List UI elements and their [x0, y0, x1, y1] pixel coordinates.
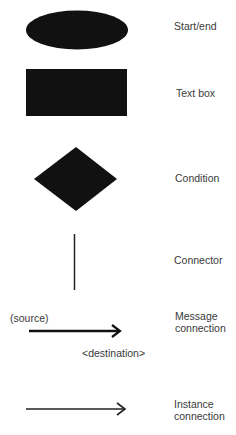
instance-connection-label-2: connection — [174, 410, 225, 422]
text-box-label: Text box — [176, 87, 215, 99]
instance-connection-arrow — [26, 403, 125, 415]
destination-label: <destination> — [82, 347, 145, 359]
legend-shapes — [0, 0, 236, 435]
start-end-label: Start/end — [174, 20, 217, 32]
connector-label: Connector — [174, 254, 222, 266]
condition-label: Condition — [175, 172, 219, 184]
instance-connection-label-1: Instance — [174, 398, 214, 410]
text-box-rectangle — [26, 69, 127, 116]
source-label: (source) — [10, 312, 49, 324]
message-connection-label-1: Message — [175, 310, 218, 322]
message-connection-arrow — [29, 325, 120, 337]
message-connection-label-2: connection — [175, 322, 226, 334]
condition-diamond — [34, 147, 117, 211]
start-end-ellipse — [26, 11, 128, 50]
